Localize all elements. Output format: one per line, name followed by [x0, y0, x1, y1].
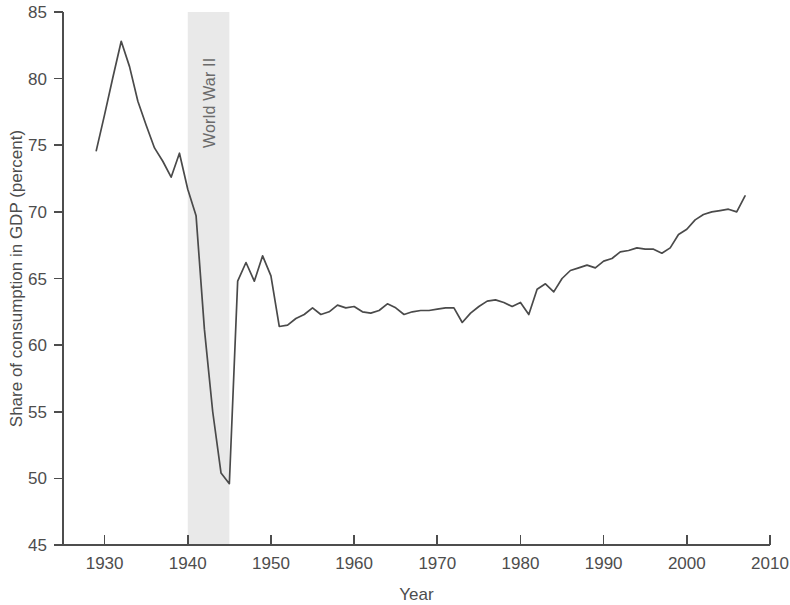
chart-background [0, 0, 790, 605]
y-tick-label: 80 [28, 70, 47, 89]
y-tick-label: 75 [28, 136, 47, 155]
y-axis-title: Share of consumption in GDP (percent) [7, 130, 26, 427]
y-tick-label: 45 [28, 536, 47, 555]
y-tick-label: 85 [28, 3, 47, 22]
consumption-share-line-chart: World War II 858075706560555045 19301940… [0, 0, 790, 605]
y-tick-label: 50 [28, 469, 47, 488]
x-tick-label: 2000 [668, 554, 706, 573]
x-tick-label: 1930 [86, 554, 124, 573]
x-tick-label: 1960 [335, 554, 373, 573]
x-tick-label: 1970 [418, 554, 456, 573]
x-tick-label: 1940 [169, 554, 207, 573]
chart-container: World War II 858075706560555045 19301940… [0, 0, 790, 605]
x-tick-label: 2010 [751, 554, 789, 573]
y-tick-label: 55 [28, 403, 47, 422]
y-tick-label: 70 [28, 203, 47, 222]
x-axis-title: Year [399, 585, 434, 604]
y-tick-label: 60 [28, 336, 47, 355]
x-tick-label: 1950 [252, 554, 290, 573]
x-tick-label: 1990 [585, 554, 623, 573]
world-war-ii-band-label: World War II [201, 58, 218, 148]
y-tick-label: 65 [28, 270, 47, 289]
x-tick-label: 1980 [502, 554, 540, 573]
